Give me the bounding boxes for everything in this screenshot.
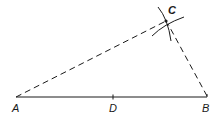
label-a: A — [11, 102, 19, 114]
label-c: C — [168, 4, 177, 16]
label-b: B — [202, 102, 209, 114]
triangle-construction-diagram: A D B C — [0, 0, 220, 117]
segment-bc-dashed — [168, 24, 207, 96]
point-c — [164, 19, 167, 22]
segment-ac-dashed — [16, 21, 166, 97]
label-d: D — [109, 102, 117, 114]
